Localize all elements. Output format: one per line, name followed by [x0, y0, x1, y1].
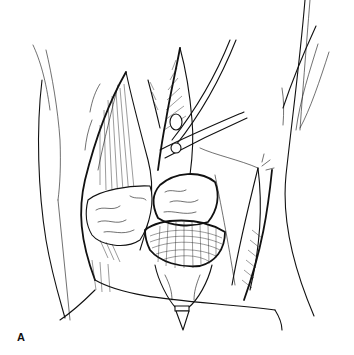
lower-catheter: [155, 265, 212, 330]
right-flap: [200, 148, 274, 300]
retractors: [160, 40, 247, 158]
surgical-illustration: A: [0, 0, 354, 355]
panel-label: A: [17, 332, 25, 343]
lower-field: [60, 260, 282, 330]
left-wound-muscle: [81, 72, 152, 280]
upper-structures: [282, 26, 329, 130]
line-drawing: [0, 0, 354, 355]
left-tissue-mass: [86, 186, 152, 262]
right-body-contour: [285, 0, 314, 316]
central-tissue: [145, 174, 225, 268]
left-body-contour: [33, 45, 70, 320]
central-pedicle: [148, 48, 193, 175]
